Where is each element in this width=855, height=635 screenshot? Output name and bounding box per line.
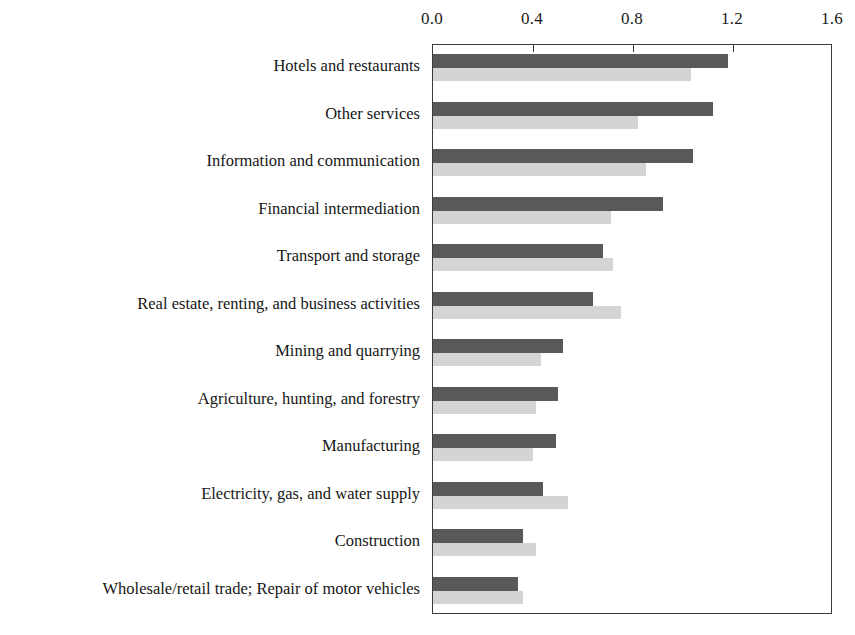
bar-group (433, 434, 831, 462)
x-tick-label: 1.2 (721, 8, 743, 30)
bar-dark (433, 339, 563, 353)
category-label: Wholesale/retail trade; Repair of motor … (103, 579, 421, 599)
category-label: Agriculture, hunting, and forestry (198, 389, 420, 409)
category-axis-labels: Hotels and restaurantsOther servicesInfo… (0, 44, 428, 614)
bar-dark (433, 529, 523, 543)
plot-area-frame (432, 44, 832, 614)
category-label: Financial intermediation (258, 199, 420, 219)
bar-light (433, 116, 638, 129)
bar-light (433, 543, 536, 556)
x-axis-tick-mark (633, 45, 634, 52)
bar-light (433, 448, 533, 461)
bar-dark (433, 434, 556, 448)
x-axis-tick-mark (533, 45, 534, 52)
bar-group (433, 292, 831, 320)
category-label: Transport and storage (277, 246, 420, 266)
bar-dark (433, 482, 543, 496)
bar-group (433, 482, 831, 510)
bar-dark (433, 387, 558, 401)
category-label: Manufacturing (322, 436, 420, 456)
category-label: Real estate, renting, and business activ… (137, 294, 420, 314)
bar-light (433, 591, 523, 604)
category-label: Other services (325, 104, 420, 124)
bar-light (433, 258, 613, 271)
bar-light (433, 163, 646, 176)
bar-light (433, 306, 621, 319)
x-tick-label: 1.6 (821, 8, 843, 30)
bar-dark (433, 292, 593, 306)
x-axis-tick-labels: 0.00.40.81.21.6 (0, 8, 855, 36)
bar-group (433, 529, 831, 557)
x-axis-tick-mark (733, 45, 734, 52)
bar-light (433, 353, 541, 366)
plot-inner (433, 45, 831, 613)
category-label: Mining and quarrying (275, 341, 420, 361)
bar-dark (433, 54, 728, 68)
bar-group (433, 102, 831, 130)
bar-light (433, 496, 568, 509)
bar-group (433, 149, 831, 177)
category-label: Construction (335, 531, 420, 551)
bar-light (433, 68, 691, 81)
category-label: Electricity, gas, and water supply (201, 484, 420, 504)
bar-light (433, 211, 611, 224)
bar-dark (433, 149, 693, 163)
bar-group (433, 54, 831, 82)
bar-group (433, 197, 831, 225)
bar-group (433, 244, 831, 272)
x-tick-label: 0.4 (521, 8, 543, 30)
x-tick-label: 0.0 (421, 8, 443, 30)
category-label: Information and communication (206, 151, 420, 171)
bar-light (433, 401, 536, 414)
bar-chart: 0.00.40.81.21.6 Hotels and restaurantsOt… (0, 0, 855, 635)
bar-group (433, 387, 831, 415)
x-tick-label: 0.8 (621, 8, 643, 30)
bar-group (433, 339, 831, 367)
bar-dark (433, 577, 518, 591)
bar-group (433, 577, 831, 605)
bar-dark (433, 244, 603, 258)
bar-dark (433, 197, 663, 211)
category-label: Hotels and restaurants (273, 56, 420, 76)
bar-dark (433, 102, 713, 116)
